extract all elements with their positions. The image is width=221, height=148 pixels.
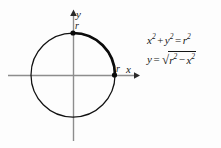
right-point-label: r (116, 64, 120, 74)
equation-circle: x2+y2=r2 (147, 33, 191, 46)
radical-sign-icon: √ (162, 53, 169, 66)
eq1-equals: = (173, 34, 182, 46)
eq1-r-exponent: 2 (187, 32, 191, 41)
eq2-x-exponent: 2 (191, 52, 195, 61)
top-point-marker (70, 30, 75, 35)
equation-solved-for-y: y=√r2−x2 (147, 51, 196, 65)
radical-expression: √r2−x2 (161, 51, 196, 65)
eq1-plus: + (156, 34, 165, 46)
top-point-label: r (75, 21, 79, 31)
radicand: r2−x2 (168, 51, 196, 65)
x-axis-arrowhead (134, 72, 140, 79)
y-axis-label: y (76, 9, 81, 20)
circle-figure: y x r r x2+y2=r2 y=√r2−x2 (0, 0, 221, 148)
eq2-equals: = (152, 53, 161, 65)
figure-graphic (0, 0, 221, 148)
x-axis-label: x (126, 64, 131, 75)
highlighted-arc (73, 33, 115, 75)
